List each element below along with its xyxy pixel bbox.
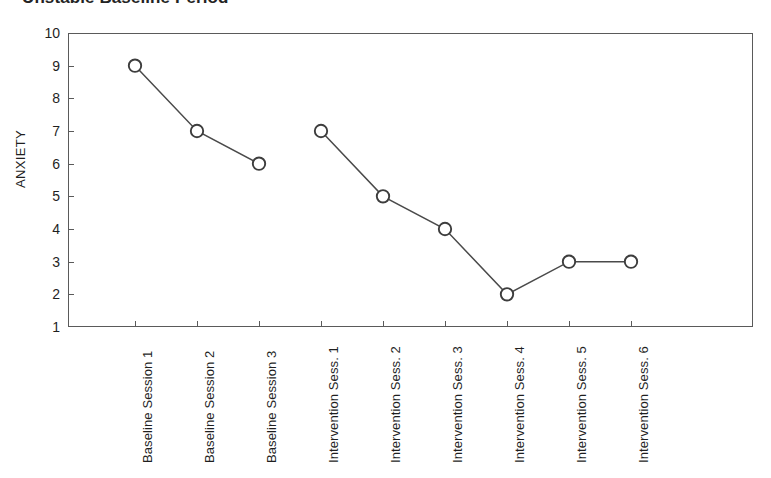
y-tick-label: 7: [26, 123, 60, 139]
y-tick-mark: [68, 294, 74, 295]
x-tick-mark: [445, 321, 446, 327]
x-tick-label: Baseline Session 1: [140, 351, 155, 463]
x-tick-mark: [135, 321, 136, 327]
x-tick-mark: [321, 321, 322, 327]
chart-screenshot: Unstable Baseline Period ANXIETY 1098765…: [0, 0, 771, 478]
y-tick-label: 1: [26, 319, 60, 335]
x-tick-label: Intervention Sess. 1: [326, 346, 341, 463]
x-tick-label: Intervention Sess. 2: [388, 346, 403, 463]
x-tick-label: Intervention Sess. 4: [512, 346, 527, 463]
x-tick-label: Intervention Sess. 5: [574, 346, 589, 463]
x-tick-mark: [383, 321, 384, 327]
y-tick-label: 5: [26, 188, 60, 204]
y-tick-label: 8: [26, 90, 60, 106]
y-tick-mark: [68, 164, 74, 165]
x-tick-mark: [631, 321, 632, 327]
y-tick-label: 4: [26, 221, 60, 237]
x-tick-mark: [197, 321, 198, 327]
plot-area: [68, 33, 753, 327]
y-tick-label: 3: [26, 254, 60, 270]
chart-title: Unstable Baseline Period: [22, 0, 228, 8]
y-tick-mark: [68, 196, 74, 197]
y-tick-label: 2: [26, 286, 60, 302]
y-tick-mark: [68, 66, 74, 67]
y-tick-mark: [68, 229, 74, 230]
y-tick-mark: [68, 131, 74, 132]
y-tick-mark: [68, 98, 74, 99]
x-tick-mark: [259, 321, 260, 327]
x-tick-label: Intervention Sess. 6: [636, 346, 651, 463]
y-tick-label: 10: [26, 25, 60, 41]
y-tick-label: 9: [26, 58, 60, 74]
y-tick-label: 6: [26, 156, 60, 172]
x-tick-mark: [569, 321, 570, 327]
x-tick-label: Baseline Session 2: [202, 351, 217, 463]
y-tick-mark: [68, 262, 74, 263]
x-tick-label: Intervention Sess. 3: [450, 346, 465, 463]
x-tick-label: Baseline Session 3: [264, 351, 279, 463]
x-tick-mark: [507, 321, 508, 327]
